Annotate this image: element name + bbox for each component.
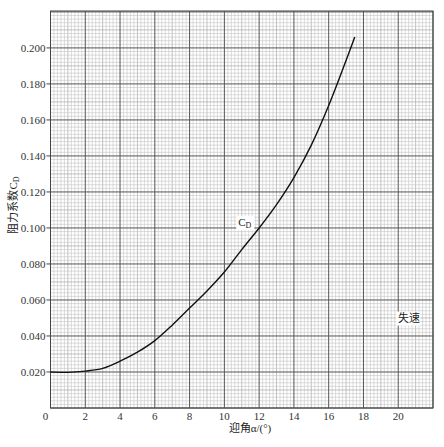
- minor-grid: [51, 11, 434, 408]
- x-axis-label: 迎角α/(°): [229, 422, 272, 435]
- x-tick-label: 18: [358, 410, 370, 422]
- x-tick-label: 2: [83, 410, 89, 422]
- x-tick-label: 14: [288, 410, 300, 422]
- y-tick-label: 0.040: [21, 330, 46, 342]
- x-tick-label: 6: [152, 410, 158, 422]
- y-axis-label: 阻力系数CD: [7, 176, 21, 233]
- y-axis-ticks: 0.0200.0400.0600.0800.1000.1200.1400.160…: [21, 42, 51, 378]
- stall-label: 失速: [398, 312, 420, 324]
- x-tick-label: 0: [43, 410, 49, 422]
- x-tick-label: 8: [187, 410, 193, 422]
- y-tick-label: 0.060: [21, 294, 46, 306]
- y-tick-label: 0.160: [21, 114, 46, 126]
- x-tick-label: 12: [254, 410, 265, 422]
- y-tick-label: 0.180: [21, 78, 46, 90]
- x-tick-label: 10: [219, 410, 231, 422]
- y-tick-label: 0.100: [21, 222, 46, 234]
- x-tick-label: 16: [323, 410, 335, 422]
- x-axis-ticks: 02468101214161820: [43, 410, 404, 422]
- y-tick-label: 0.200: [21, 42, 46, 54]
- y-tick-label: 0.120: [21, 186, 46, 198]
- x-tick-label: 4: [117, 410, 123, 422]
- y-tick-label: 0.020: [21, 366, 46, 378]
- drag-coefficient-chart: 0.0200.0400.0600.0800.1000.1200.1400.160…: [0, 0, 444, 447]
- x-tick-label: 20: [393, 410, 405, 422]
- y-tick-label: 0.140: [21, 150, 46, 162]
- y-tick-label: 0.080: [21, 258, 46, 270]
